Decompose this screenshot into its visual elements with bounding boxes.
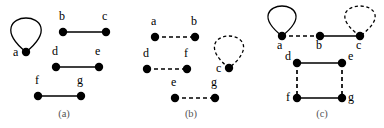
self-loop-a-solid [268,6,296,36]
vertex-label-c: c [356,38,361,52]
vertex-d [143,65,151,73]
vertex-g [77,92,85,100]
vertex-c [225,64,233,72]
vertex-label-e: e [348,49,353,63]
vertex-label-f: f [286,90,290,104]
vertex-label-d: d [143,46,149,60]
vertex-e [171,94,179,102]
vertex-label-b: b [316,38,322,52]
panel-c: abcdefg(c) [268,6,375,120]
vertex-g [338,94,346,102]
vertex-label-b: b [191,14,197,28]
vertex-label-e: e [171,75,176,89]
vertex-label-a: a [151,14,157,28]
panel-caption-panel-c: (c) [316,108,328,120]
vertex-a [151,33,159,41]
vertex-d [293,59,301,67]
panel-caption-panel-a: (a) [58,108,70,120]
vertex-f [293,94,301,102]
vertex-e [338,59,346,67]
graph-figure: abcdefg(a)abdfegc(b)abcdefg(c) [0,0,384,128]
vertex-label-g: g [348,90,354,104]
panels-group: abcdefg(a)abdfegc(b)abcdefg(c) [11,6,375,120]
panel-b: abdfegc(b) [143,14,244,120]
vertex-e [95,63,103,71]
vertex-label-d: d [52,44,58,58]
vertex-label-e: e [95,44,100,58]
vertex-label-f: f [35,73,39,87]
vertex-label-d: d [285,49,291,63]
vertex-f [183,65,191,73]
self-loop-c-dashed [345,6,375,36]
vertex-label-f: f [184,46,188,60]
vertex-label-c: c [102,9,107,23]
vertex-label-g: g [211,75,217,89]
vertex-label-a: a [13,45,19,59]
panel-a: abcdefg(a) [11,9,110,120]
vertex-a [22,48,30,56]
vertex-c [102,28,110,36]
vertex-b [191,33,199,41]
vertex-d [52,63,60,71]
panel-caption-panel-b: (b) [185,108,198,120]
vertex-label-a: a [277,38,283,52]
figure-canvas: abcdefg(a)abdfegc(b)abcdefg(c) [0,0,384,128]
vertex-label-b: b [59,9,65,23]
vertex-f [34,92,42,100]
vertex-g [211,94,219,102]
vertex-label-g: g [77,73,83,87]
vertex-b [59,28,67,36]
vertex-label-c: c [216,61,221,75]
